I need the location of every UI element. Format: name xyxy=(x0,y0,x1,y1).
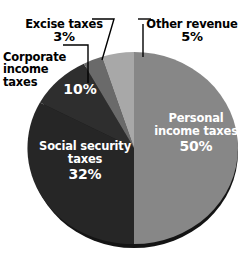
slice-label-personal-income-taxes: Personal income taxes 50% xyxy=(148,112,244,155)
pie-chart-figure: Excise taxes 3% Other revenue 5% Corpora… xyxy=(0,0,248,256)
slice-value-corporate-income-taxes: 10% xyxy=(54,81,106,98)
slice-label-social-security-taxes: Social security taxes 32% xyxy=(30,140,140,183)
slice-value-social-security-taxes: 32% xyxy=(30,166,140,183)
slice-value-personal-income-taxes: 50% xyxy=(148,138,244,155)
callout-other-revenue-value: 5% xyxy=(140,30,244,44)
slice-label-social-security-taxes-text: Social security taxes xyxy=(39,139,131,166)
callout-other-revenue: Other revenue 5% xyxy=(140,5,244,57)
slice-label-personal-income-taxes-text: Personal income taxes xyxy=(154,111,238,138)
